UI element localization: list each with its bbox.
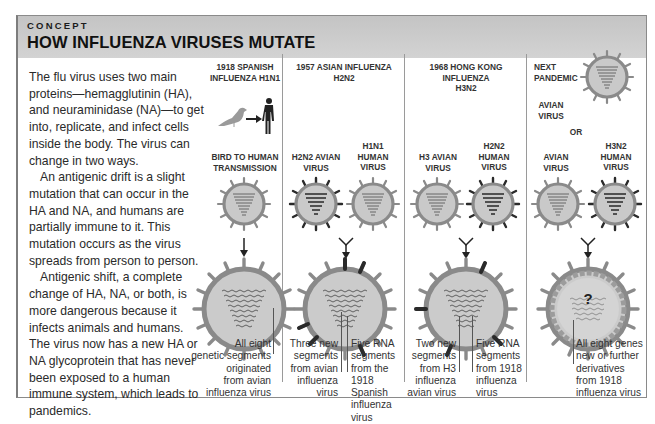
- caption-line: virus: [286, 387, 338, 399]
- leader-line: [347, 316, 348, 372]
- concept-panel: CONCEPT HOW INFLUENZA VIRUSES MUTATE The…: [16, 15, 647, 398]
- caption-line: segments: [286, 350, 338, 362]
- column-title: NEXT PANDEMIC: [534, 62, 578, 83]
- leader-line: [341, 312, 342, 372]
- label-line: VIRUS: [536, 111, 566, 122]
- avian-virus-icon: [316, 204, 317, 205]
- label-line: H3N2: [591, 141, 641, 152]
- source-a-label: H3 AVIAN VIRUS: [410, 152, 466, 173]
- caption-line: virus: [476, 387, 526, 399]
- caption-line: avian virus: [404, 387, 456, 399]
- label-line: VIRUS: [469, 162, 519, 173]
- caption-line: segments: [404, 350, 456, 362]
- leader-line: [459, 316, 460, 372]
- caption-line: from H3: [404, 363, 456, 375]
- column-title-line: 1918 SPANISH: [205, 62, 285, 73]
- large-virus-icon: [466, 309, 467, 310]
- column-title-line: H3N2: [406, 83, 526, 94]
- caption-line: All eight: [198, 338, 271, 350]
- column-title-line: NEXT: [534, 62, 578, 73]
- avian-virus-icon: [437, 204, 438, 205]
- label-line: HUMAN: [348, 152, 398, 163]
- label-line: HUMAN: [469, 152, 519, 163]
- caption-left: Three new segments from avian influenza …: [286, 338, 338, 399]
- caption-line: Five RNA: [476, 338, 526, 350]
- caption-line: Two new: [404, 338, 456, 350]
- leader-line: [573, 320, 574, 364]
- column-title: 1918 SPANISH INFLUENZA H1N1: [205, 62, 285, 83]
- caption-line: influenza virus: [576, 387, 655, 399]
- human-virus-icon: [615, 204, 616, 205]
- caption-line: from avian: [286, 363, 338, 375]
- caption-line: influenza: [286, 375, 338, 387]
- option-avian-label: AVIAN VIRUS: [536, 100, 566, 121]
- human-virus-icon: [493, 204, 494, 205]
- label-line: AVIAN: [536, 100, 566, 111]
- caption-line: originated: [198, 363, 271, 375]
- intro-paragraph: Antigenic shift, a complete change of HA…: [29, 269, 207, 419]
- bird-to-human-illustration: [216, 98, 286, 148]
- label-line: AVIAN: [531, 152, 581, 163]
- intro-text: The flu virus uses two main proteins—hem…: [29, 69, 207, 420]
- caption-line: derivatives: [576, 363, 655, 375]
- human-virus-icon: [373, 204, 374, 205]
- source-a-label: AVIAN VIRUS: [531, 152, 581, 173]
- caption-line: segments: [351, 350, 411, 362]
- column-divider: [404, 54, 405, 382]
- panel-header: CONCEPT HOW INFLUENZA VIRUSES MUTATE: [18, 16, 646, 58]
- caption-line: genetic segments: [188, 350, 271, 362]
- large-virus-icon: [244, 309, 245, 310]
- label-line: H3 AVIAN: [410, 152, 466, 163]
- unknown-mark: ?: [580, 294, 596, 305]
- caption-line: influenza virus: [351, 399, 411, 424]
- virus-icon: [244, 204, 245, 205]
- source-b-label: H1N1 HUMAN VIRUS: [348, 141, 398, 173]
- bird-icon: [218, 108, 247, 127]
- column-title-line: INFLUENZA H1N1: [205, 73, 285, 84]
- label-line: H2N2 AVIAN: [288, 152, 344, 163]
- source-b-label: H2N2 HUMAN VIRUS: [469, 141, 519, 173]
- caption-line: influenza: [476, 375, 526, 387]
- caption-line: from the: [351, 363, 411, 375]
- merge-arrow-icon: [456, 238, 476, 260]
- caption-left: Two new segments from H3 influenza avian…: [404, 338, 456, 399]
- column-title-line: H2N2: [285, 73, 403, 84]
- column-title: 1968 HONG KONG INFLUENZA H3N2: [406, 62, 526, 94]
- panel-title: HOW INFLUENZA VIRUSES MUTATE: [27, 33, 315, 52]
- caption-line: Five RNA: [351, 338, 411, 350]
- caption-line: new or further: [576, 350, 655, 362]
- concept-kicker: CONCEPT: [27, 20, 89, 31]
- label-line: VIRUS: [348, 162, 398, 173]
- intro-paragraph: The flu virus uses two main proteins—hem…: [29, 69, 207, 169]
- label-line: VIRUS: [591, 162, 641, 173]
- caption-line: influenza virus: [198, 387, 271, 399]
- merge-arrow-icon: [336, 238, 356, 260]
- leader-line: [273, 308, 274, 354]
- avian-virus-icon: [607, 77, 608, 78]
- caption-line: All eight genes: [576, 338, 655, 350]
- caption-right: Five RNA segments from 1918 influenza vi…: [476, 338, 526, 399]
- column-divider: [526, 54, 527, 382]
- leader-line: [472, 316, 473, 372]
- caption: All eight genes new or further derivativ…: [576, 338, 655, 399]
- intro-paragraph: An antigenic drift is a slight mutation …: [29, 169, 207, 269]
- future-virus-icon: [588, 309, 589, 310]
- arrow-down-icon: [236, 238, 252, 258]
- label-line: VIRUS: [288, 163, 344, 174]
- or-label: OR: [566, 127, 586, 138]
- merge-arrow-icon: [578, 238, 598, 260]
- caption-line: from 1918: [576, 375, 655, 387]
- column-title-line: PANDEMIC: [534, 73, 578, 84]
- source-a-label: H2N2 AVIAN VIRUS: [288, 152, 344, 173]
- caption-line: from avian: [198, 375, 271, 387]
- caption-right: Five RNA segments from the 1918 Spanish …: [351, 338, 411, 424]
- label-line: VIRUS: [531, 163, 581, 174]
- caption: All eight genetic segments originated fr…: [198, 338, 271, 399]
- source-b-label: H3N2 HUMAN VIRUS: [591, 141, 641, 173]
- column-title-line: 1968 HONG KONG INFLUENZA: [406, 62, 526, 83]
- column-title-line: 1957 ASIAN INFLUENZA: [285, 62, 403, 73]
- human-icon: [262, 98, 274, 134]
- arrow-right-icon: [246, 115, 262, 123]
- caption-line: Three new: [286, 338, 338, 350]
- caption-line: segments: [476, 350, 526, 362]
